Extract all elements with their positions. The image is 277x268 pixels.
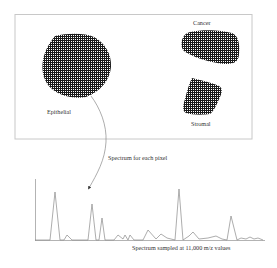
stromal-region (183, 78, 222, 115)
cancer-region (182, 30, 240, 64)
epithelial-region (42, 34, 111, 98)
label-epithelial: Epithelial (47, 109, 71, 115)
spectrum-trace (35, 189, 263, 240)
arrow-label: Spectrum for each pixel (108, 155, 167, 161)
label-cancer: Cancer (193, 20, 211, 26)
pixel-to-spectrum-arrow (89, 96, 106, 188)
spectrum-caption: Spectrum sampled at 11,000 m/z values (132, 245, 230, 251)
tissue-spectrum-diagram (0, 0, 277, 268)
label-stromal: Stromal (191, 121, 211, 127)
